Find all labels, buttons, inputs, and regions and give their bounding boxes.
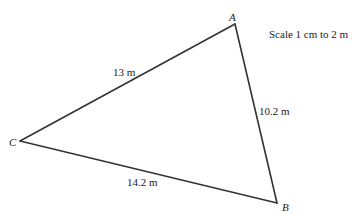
side-label-ca: 13 m: [113, 67, 135, 78]
side-ca: [20, 24, 235, 141]
scale-note: Scale 1 cm to 2 m: [269, 29, 348, 40]
vertex-label-b: B: [282, 202, 289, 213]
side-label-ab: 10.2 m: [259, 106, 290, 117]
vertex-label-c: C: [9, 137, 16, 148]
side-cb: [20, 141, 277, 203]
vertex-label-a: A: [229, 12, 236, 23]
side-label-cb: 14.2 m: [127, 177, 158, 188]
